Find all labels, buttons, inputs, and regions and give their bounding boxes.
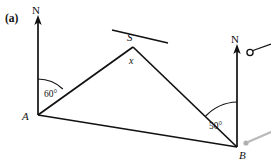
point-label-b: B <box>239 149 246 161</box>
cursor-pointer-icon <box>243 132 271 146</box>
marker-leader-line <box>253 44 271 51</box>
diagram-canvas: (a) N N A B S x 60° 50° <box>0 0 271 165</box>
open-circle-marker-icon <box>247 49 253 55</box>
north-arrow-at-b-group <box>233 44 240 147</box>
north-arrow-at-a-group <box>34 15 41 115</box>
angle-label-at-b: 50° <box>209 121 223 131</box>
angle-label-at-a: 60° <box>44 89 58 99</box>
north-label-left: N <box>32 4 40 16</box>
angle-arc-at-b <box>206 102 237 116</box>
north-label-right: N <box>231 33 239 45</box>
angle-arc-at-a <box>38 79 63 89</box>
line-segment-a-to-s <box>38 47 133 115</box>
bearings-diagram-figure: (a) N N A B S x 60° 50° <box>0 0 271 165</box>
cursor-tail-line <box>248 132 271 142</box>
point-label-a: A <box>21 110 29 122</box>
unknown-angle-label-x: x <box>128 55 134 66</box>
point-label-s: S <box>127 31 133 43</box>
transversal-line-through-s <box>112 30 168 43</box>
part-label: (a) <box>5 12 19 25</box>
line-segment-a-to-b <box>38 115 237 147</box>
